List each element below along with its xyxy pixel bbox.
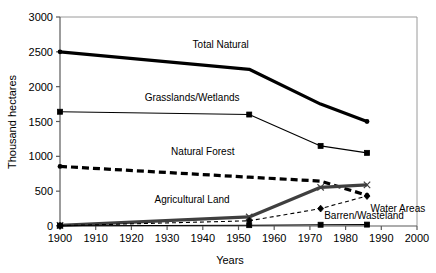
y-tick-label: 500 bbox=[35, 185, 53, 197]
y-axis-ticks: 050010001500200025003000 bbox=[29, 11, 60, 232]
x-tick-label: 1980 bbox=[333, 232, 357, 244]
x-tick-label: 1900 bbox=[48, 232, 72, 244]
data-point-1-2 bbox=[318, 143, 323, 148]
series-line-2 bbox=[60, 166, 367, 195]
series-label-barren-wasteland: Barren/Wasteland bbox=[324, 210, 404, 221]
x-tick-label: 2000 bbox=[405, 232, 429, 244]
series-label-total-natural: Total Natural bbox=[193, 39, 249, 50]
data-point-2-0 bbox=[58, 164, 63, 169]
series-label-grasslands-wetlands: Grasslands/Wetlands bbox=[145, 92, 240, 103]
x-tick-label: 1920 bbox=[119, 232, 143, 244]
data-point-4-3 bbox=[364, 193, 370, 200]
line-chart: 1900191019201930194019501960197019801990… bbox=[0, 0, 436, 273]
data-point-0-0 bbox=[58, 49, 63, 54]
x-axis-title: Years bbox=[216, 254, 244, 266]
data-point-1-0 bbox=[58, 109, 63, 114]
data-point-1-3 bbox=[365, 150, 370, 155]
y-tick-label: 1500 bbox=[29, 116, 53, 128]
y-tick-label: 0 bbox=[47, 220, 53, 232]
x-tick-label: 1910 bbox=[83, 232, 107, 244]
series-label-agricultural-land: Agricultural Land bbox=[155, 194, 230, 205]
y-axis-title: Thousand hectares bbox=[6, 74, 18, 169]
data-point-5-2 bbox=[318, 222, 323, 227]
x-tick-label: 1960 bbox=[262, 232, 286, 244]
x-tick-label: 1990 bbox=[369, 232, 393, 244]
y-tick-label: 2500 bbox=[29, 46, 53, 58]
y-tick-label: 3000 bbox=[29, 11, 53, 23]
data-point-1-1 bbox=[247, 112, 252, 117]
data-point-5-0 bbox=[58, 223, 63, 228]
data-point-5-3 bbox=[365, 222, 370, 227]
data-point-0-3 bbox=[365, 119, 370, 124]
chart-container: 1900191019201930194019501960197019801990… bbox=[0, 0, 436, 273]
x-tick-label: 1950 bbox=[226, 232, 250, 244]
x-tick-label: 1940 bbox=[191, 232, 215, 244]
y-tick-label: 2000 bbox=[29, 81, 53, 93]
x-tick-label: 1930 bbox=[155, 232, 179, 244]
y-tick-label: 1000 bbox=[29, 150, 53, 162]
x-axis-ticks: 1900191019201930194019501960197019801990… bbox=[48, 226, 429, 244]
series-line-0 bbox=[60, 52, 367, 122]
data-point-5-1 bbox=[247, 223, 252, 228]
series-label-natural-forest: Natural Forest bbox=[171, 146, 235, 157]
data-point-4-2 bbox=[318, 205, 324, 212]
x-tick-label: 1970 bbox=[298, 232, 322, 244]
